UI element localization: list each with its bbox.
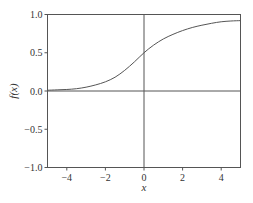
x-tick-label: −2 [100,172,111,183]
x-tick-label: 4 [219,172,224,183]
y-tick-label: −1.0 [24,162,42,173]
x-tick-label: −4 [61,172,72,183]
y-axis-ticks: −1.0−0.50.00.51.0 [24,9,47,173]
x-axis-label: x [141,181,147,193]
y-tick-label: −0.5 [24,124,42,135]
reference-lines [48,15,241,168]
y-tick-label: 1.0 [30,9,43,20]
chart: −1.0−0.50.00.51.0 −4−2024 x f(x) [0,0,253,203]
y-axis-label: f(x) [7,83,20,99]
x-tick-label: 2 [180,172,185,183]
y-tick-label: 0.5 [30,47,43,58]
y-tick-label: 0.0 [30,86,43,97]
